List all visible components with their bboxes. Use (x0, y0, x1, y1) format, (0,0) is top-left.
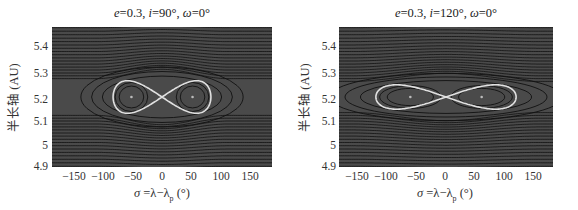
left-ytick: 5.3 (18, 67, 48, 79)
right-contour-plot (339, 27, 553, 167)
lambda-diff: =λ−λ (140, 186, 169, 200)
degree-unit: (°) (457, 186, 473, 200)
right-chart-title: e=0.3, i=120°, ω=0° (339, 6, 553, 21)
title-e-value: =0.3, (120, 6, 149, 20)
equilibrium-point (409, 96, 412, 99)
equilibrium-point (191, 96, 194, 99)
title-omega-value: =0° (479, 6, 497, 20)
separatrix-curve (113, 81, 211, 114)
left-ytick: 5.2 (18, 93, 48, 105)
contour-lines (339, 27, 553, 167)
left-ytick: 4.9 (18, 160, 48, 172)
left-chart-title: e=0.3, i=90°, ω=0° (52, 6, 272, 21)
left-chart-panel: e=0.3, i=90°, ω=0° 半长轴 (AU) 5.4 5.3 5.2 … (0, 0, 289, 210)
left-ytick: 5 (18, 139, 48, 151)
right-x-axis-label: σ =λ−λp (°) (365, 186, 525, 203)
title-omega: ω (183, 6, 192, 20)
right-ytick: 5.4 (306, 40, 336, 52)
right-ytick: 5.1 (306, 115, 336, 127)
right-xtick: 150 (513, 170, 553, 182)
right-ytick: 5.3 (306, 67, 336, 79)
right-chart-panel: e=0.3, i=120°, ω=0° 半长轴 (AU) 5.4 5.3 5.2… (289, 0, 578, 210)
left-xtick: 150 (230, 170, 270, 182)
right-ytick: 5.2 (306, 93, 336, 105)
left-contour-plot (52, 27, 272, 167)
title-i-value: =90°, (152, 6, 183, 20)
left-ytick: 5.4 (18, 40, 48, 52)
left-ytick: 5.1 (18, 115, 48, 127)
equilibrium-point (480, 96, 483, 99)
degree-unit: (°) (174, 186, 190, 200)
left-x-axis-label: σ =λ−λp (°) (82, 186, 242, 203)
title-e-value: =0.3, (400, 6, 429, 20)
separatrix-curve (376, 85, 516, 109)
lambda-diff: =λ−λ (423, 186, 452, 200)
title-i-value: =120°, (433, 6, 470, 20)
title-omega-value: =0° (192, 6, 210, 20)
right-ytick: 4.9 (306, 160, 336, 172)
right-ytick: 5 (306, 139, 336, 151)
equilibrium-point (130, 96, 133, 99)
contour-lines (52, 27, 272, 167)
title-omega: ω (470, 6, 479, 20)
